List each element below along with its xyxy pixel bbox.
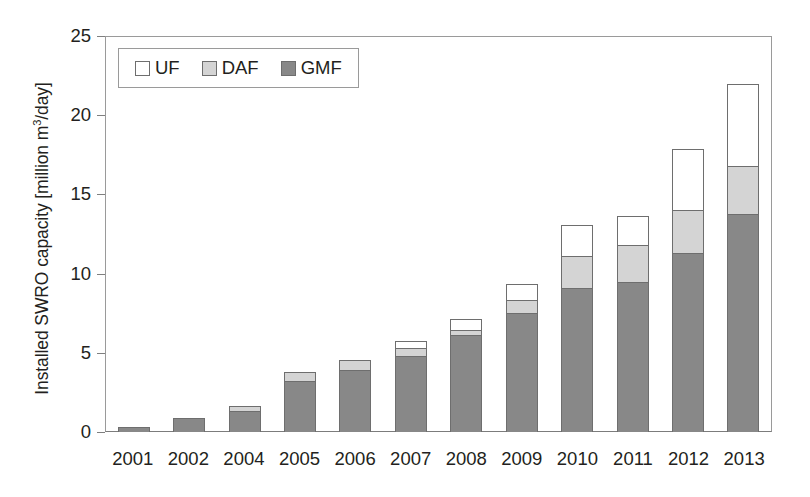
stacked-bar[interactable] [561,225,593,431]
y-axis-tick-mark [97,274,105,275]
bar-segment-gmf[interactable] [561,288,593,432]
y-axis-tick-label: 25 [53,25,91,47]
y-axis-tick-mark [97,353,105,354]
bar-slot [383,37,438,431]
bar-slot [161,37,216,431]
bar-segment-gmf[interactable] [173,418,205,432]
y-axis-tick-mark [97,115,105,116]
bar-slot [605,37,660,431]
x-axis-tick-label: 2012 [661,448,717,470]
bar-segment-gmf[interactable] [229,411,261,432]
legend-swatch-daf [202,61,217,76]
bar-slot [439,37,494,431]
bar-segment-uf[interactable] [727,84,759,166]
plot-area [105,36,772,432]
x-axis-tick-label: 2002 [161,448,217,470]
x-axis-tick-label: 2009 [494,448,550,470]
bar-segment-gmf[interactable] [727,214,759,433]
bar-segment-uf[interactable] [561,225,593,257]
x-axis-tick-label: 2010 [550,448,606,470]
chart-legend: UFDAFGMF [118,48,359,88]
chart-figure: Installed SWRO capacity [million m3/day]… [0,0,810,497]
bar-slot [494,37,549,431]
bar-segment-daf[interactable] [617,245,649,283]
x-axis-tick-label: 2001 [105,448,161,470]
x-axis-tick-label: 2004 [216,448,272,470]
y-axis-tick-label: 20 [53,104,91,126]
x-axis-tick-label: 2007 [383,448,439,470]
bar-segment-gmf[interactable] [506,313,538,432]
x-axis-tick-label: 2011 [605,448,661,470]
stacked-bar[interactable] [506,284,538,431]
bar-segment-uf[interactable] [617,216,649,246]
bar-slot [716,37,771,431]
bar-slot [660,37,715,431]
bar-slot [106,37,161,431]
legend-swatch-uf [135,61,150,76]
y-axis-tick-mark [97,36,105,37]
x-axis-tick-label: 2006 [327,448,383,470]
legend-swatch-gmf [281,61,296,76]
stacked-bar[interactable] [617,216,649,431]
x-axis-tick-label: 2008 [438,448,494,470]
stacked-bar[interactable] [118,427,150,431]
y-axis-tick-label: 10 [53,263,91,285]
bar-segment-gmf[interactable] [450,335,482,432]
y-axis-title-superscript: 3 [31,120,43,126]
legend-label: GMF [301,59,342,78]
stacked-bar[interactable] [339,360,371,431]
bar-segment-gmf[interactable] [118,427,150,432]
y-axis-tick-mark [97,432,105,433]
legend-item-gmf[interactable]: GMF [281,59,342,78]
bar-segment-daf[interactable] [506,300,538,314]
stacked-bar[interactable] [173,418,205,431]
stacked-bar[interactable] [672,149,704,431]
bar-segment-gmf[interactable] [339,370,371,432]
y-axis-tick-label: 15 [53,183,91,205]
stacked-bar[interactable] [284,372,316,431]
bar-segment-gmf[interactable] [395,356,427,432]
y-axis-tick-mark [97,194,105,195]
y-axis-tick-label: 0 [53,421,91,443]
stacked-bar[interactable] [450,319,482,431]
bar-segment-daf[interactable] [561,256,593,289]
legend-label: DAF [222,59,259,78]
bar-segment-daf[interactable] [727,166,759,215]
bar-segment-daf[interactable] [672,210,704,254]
bar-slot [549,37,604,431]
bar-segment-gmf[interactable] [672,253,704,432]
stacked-bar[interactable] [727,84,759,431]
stacked-bar[interactable] [395,341,427,431]
y-axis-tick-labels: 0510152025 [47,0,91,497]
legend-label: UF [155,59,180,78]
bar-segment-uf[interactable] [506,284,538,301]
y-axis-tick-label: 5 [53,342,91,364]
bar-segment-gmf[interactable] [284,381,316,432]
stacked-bar[interactable] [229,406,261,431]
bar-slot [217,37,272,431]
bar-slot [328,37,383,431]
legend-item-daf[interactable]: DAF [202,59,259,78]
legend-item-uf[interactable]: UF [135,59,180,78]
x-axis-tick-labels: 2001200220042005200620072008200920102011… [105,448,772,470]
x-axis-tick-label: 2005 [272,448,328,470]
bar-slot [272,37,327,431]
x-axis-tick-label: 2013 [716,448,772,470]
bar-segment-gmf[interactable] [617,282,649,432]
bar-segment-uf[interactable] [672,149,704,211]
bar-group [106,37,771,431]
